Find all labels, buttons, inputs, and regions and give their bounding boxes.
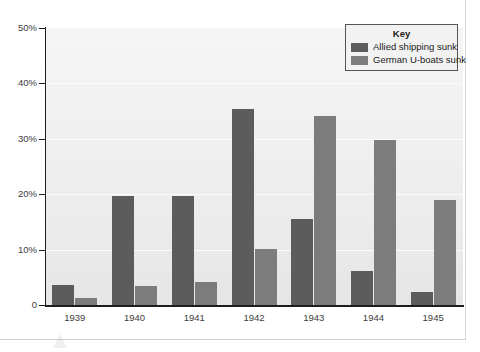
bar-1942-german (255, 249, 277, 306)
legend-swatch (351, 56, 368, 65)
y-axis-tick (39, 83, 45, 84)
bar-1945-german (434, 200, 456, 305)
bar-1942-allied (232, 109, 254, 305)
x-axis-tick-label: 1940 (105, 313, 165, 323)
x-axis-tick-label: 1942 (224, 313, 284, 323)
x-axis-line (45, 305, 464, 307)
bar-1940-allied (112, 196, 134, 305)
legend-entry: German U-boats sunk (351, 55, 452, 65)
bar-1944-allied (351, 271, 373, 305)
bar-1940-german (135, 286, 157, 305)
legend-label: German U-boats sunk (373, 55, 466, 65)
y-axis-line (45, 27, 46, 306)
bar-1945-allied (411, 292, 433, 305)
bar-group (52, 28, 97, 305)
chart-figure: 010%20%30%40%50% 19391940194119421943194… (0, 0, 480, 352)
y-axis-tick (39, 250, 45, 251)
y-axis-tick-label: 20% (3, 189, 37, 199)
legend-swatch (351, 43, 368, 52)
bar-1941-allied (172, 196, 194, 305)
bar-1939-german (75, 298, 97, 305)
bar-1943-allied (291, 219, 313, 305)
bar-1943-german (314, 116, 336, 305)
bar-1939-allied (52, 285, 74, 305)
x-axis-tick-label: 1945 (403, 313, 463, 323)
x-axis-tick-label: 1944 (343, 313, 403, 323)
bar-1941-german (195, 282, 217, 305)
y-axis-tick (39, 28, 45, 29)
x-axis-tick-label: 1939 (45, 313, 105, 323)
bar-group (232, 28, 277, 305)
bar-group (291, 28, 336, 305)
bar-group (172, 28, 217, 305)
y-axis-tick (39, 139, 45, 140)
y-axis-tick-label: 40% (3, 78, 37, 88)
legend-title: Key (351, 29, 452, 39)
chart-legend: Key Allied shipping sunkGerman U-boats s… (345, 24, 458, 71)
y-axis-tick (39, 305, 45, 306)
y-axis-tick (39, 194, 45, 195)
y-axis-tick-label: 50% (3, 23, 37, 33)
y-axis-tick-label: 30% (3, 134, 37, 144)
y-axis-labels: 010%20%30%40%50% (0, 0, 37, 352)
y-axis-tick-label: 0 (3, 300, 37, 310)
legend-entries: Allied shipping sunkGerman U-boats sunk (351, 42, 452, 65)
legend-label: Allied shipping sunk (373, 42, 457, 52)
legend-entry: Allied shipping sunk (351, 42, 452, 52)
bar-group (112, 28, 157, 305)
watermark-icon (52, 333, 68, 349)
bar-1944-german (374, 140, 396, 305)
x-axis-tick-label: 1943 (284, 313, 344, 323)
y-axis-tick-label: 10% (3, 245, 37, 255)
x-axis-tick-label: 1941 (164, 313, 224, 323)
